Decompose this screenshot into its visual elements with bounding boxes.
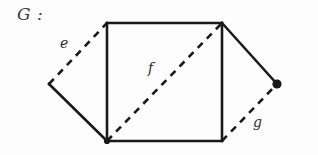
graph-name-label: G :: [17, 6, 43, 23]
edge-e-dashed: [49, 23, 107, 84]
edge-lower-left: [49, 84, 107, 141]
edge-f-dashed: [107, 23, 222, 141]
edge-label-f: f: [148, 61, 153, 75]
edge-upper-right: [222, 23, 277, 84]
vertex-right-dot: [272, 79, 281, 88]
vertex-bottom-right-corner: [221, 140, 224, 143]
edge-label-g: g: [253, 115, 262, 129]
vertex-left-corner: [48, 83, 51, 86]
edge-g-dashed: [222, 84, 277, 141]
vertex-top-right-corner: [221, 22, 224, 25]
edge-label-e: e: [60, 36, 68, 50]
graph-figure: G : e f g: [0, 0, 318, 155]
vertex-top-left-corner: [106, 22, 109, 25]
graph-canvas: [0, 0, 318, 155]
vertex-bottom-left-dot: [104, 138, 110, 144]
